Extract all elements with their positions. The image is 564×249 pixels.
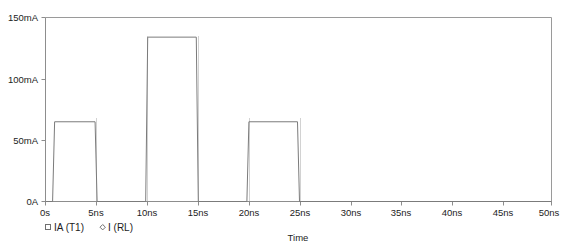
- legend-label-ia-t1: IA (T1): [54, 222, 84, 233]
- x-tick-label-15: 15ns: [188, 207, 209, 218]
- x-tick-label-50: 50ns: [539, 207, 560, 218]
- chart-legend: IA (T1) I (RL): [46, 222, 134, 233]
- chart-svg: 150mA 100mA 50mA 0A 0s 5ns 10ns 15ns 20n…: [0, 0, 564, 249]
- x-tick-label-5: 5ns: [88, 207, 104, 218]
- x-axis-ticks: [46, 202, 552, 206]
- waveform-trace-ia-t1: [46, 37, 552, 201]
- x-tick-label-45: 45ns: [493, 207, 514, 218]
- x-tick-label-0: 0s: [40, 207, 50, 218]
- x-tick-label-35: 35ns: [391, 207, 412, 218]
- y-tick-label-150: 150mA: [8, 12, 39, 23]
- x-tick-label-20: 20ns: [239, 207, 260, 218]
- y-axis-ticks: [42, 18, 46, 202]
- x-tick-label-30: 30ns: [341, 207, 362, 218]
- x-tick-label-10: 10ns: [137, 207, 158, 218]
- x-tick-label-40: 40ns: [442, 207, 463, 218]
- waveform-chart: 150mA 100mA 50mA 0A 0s 5ns 10ns 15ns 20n…: [0, 0, 564, 249]
- x-tick-label-25: 25ns: [290, 207, 311, 218]
- y-tick-label-50: 50mA: [13, 135, 38, 146]
- x-axis-tick-labels: 0s 5ns 10ns 15ns 20ns 25ns 30ns 35ns 40n…: [40, 207, 560, 218]
- y-tick-label-0: 0A: [26, 196, 38, 207]
- plot-gridlines: [97, 36, 301, 201]
- diamond-marker-icon: [100, 225, 105, 230]
- x-axis-title: Time: [288, 232, 309, 243]
- square-marker-icon: [46, 225, 51, 230]
- y-axis-tick-labels: 150mA 100mA 50mA 0A: [8, 12, 39, 207]
- y-tick-label-100: 100mA: [8, 74, 39, 85]
- legend-label-i-rl: I (RL): [108, 222, 133, 233]
